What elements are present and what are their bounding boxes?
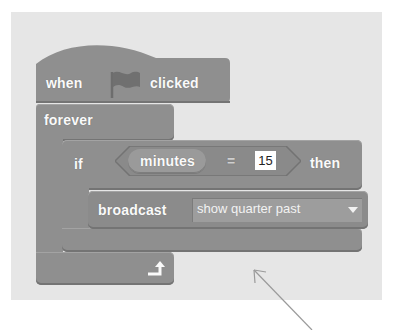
pointer-arrow [0,0,393,330]
